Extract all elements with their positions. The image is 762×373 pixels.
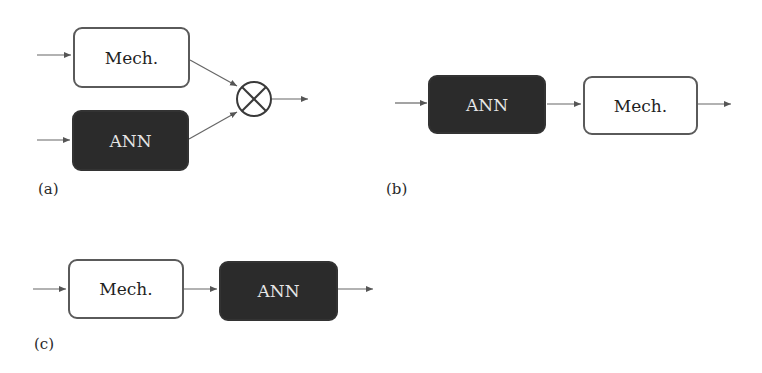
mech-block-b-text: Mech. [614,96,667,116]
mech-block-a-text: Mech. [105,48,158,68]
panel-label-b: (b) [386,180,407,198]
ann-block-b-text: ANN [466,95,508,115]
mech-block-c-text: Mech. [99,279,152,299]
mech-block-a: Mech. [73,27,190,88]
panel-label-c: (c) [34,335,54,353]
mech-block-c: Mech. [68,259,184,319]
mech-block-b: Mech. [583,76,698,135]
ann-block-a-text: ANN [109,131,151,151]
ann-block-c: ANN [219,261,338,321]
ann-block-c-text: ANN [257,281,299,301]
panel-label-a: (a) [38,180,59,198]
ann-block-a: ANN [72,110,189,171]
ann-block-b: ANN [428,75,546,134]
multiply-junction-icon [237,82,271,116]
